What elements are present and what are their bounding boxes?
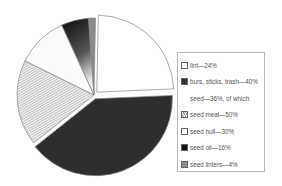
- legend-swatch-lint: [181, 62, 188, 69]
- legend: lint—24% burs, sticks, trash—40% seed—36…: [177, 52, 265, 172]
- legend-item-seed-oil: seed oil—16%: [181, 140, 264, 157]
- legend-label: lint—24%: [190, 62, 217, 69]
- legend-swatch-seed-meal: [181, 111, 188, 118]
- legend-item-burs: burs, sticks, trash—40%: [181, 74, 264, 91]
- legend-label: seed meal—50%: [190, 111, 238, 118]
- pie-slices: [17, 15, 174, 176]
- legend-label: seed linters—4%: [190, 161, 238, 168]
- legend-item-seed-meal: seed meal—50%: [181, 107, 264, 124]
- legend-swatch-seed-linters: [181, 161, 188, 168]
- legend-label: seed oil—16%: [190, 144, 231, 151]
- legend-swatch-seed-oil: [181, 144, 188, 151]
- legend-swatch-seed-hull: [181, 128, 188, 135]
- legend-swatch-burs: [181, 78, 188, 85]
- legend-item-seed-linters: seed linters—4%: [181, 156, 264, 173]
- legend-item-seed-hull: seed hull—30%: [181, 123, 264, 140]
- legend-item-seed-group: seed—36%, of which: [181, 90, 264, 107]
- legend-label: seed—36%, of which: [190, 95, 249, 102]
- pie-slice-lint: [97, 15, 174, 92]
- legend-label: burs, sticks, trash—40%: [190, 78, 258, 85]
- legend-label: seed hull—30%: [190, 128, 234, 135]
- legend-item-lint: lint—24%: [181, 57, 264, 74]
